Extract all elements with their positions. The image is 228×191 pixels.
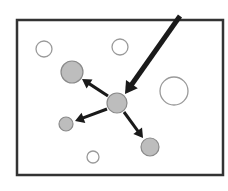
filled-circle-filled-upper-left — [61, 61, 83, 83]
open-circle-open-bottom-small — [87, 151, 99, 163]
filled-circle-filled-lower-left — [59, 117, 73, 131]
circles-group — [36, 39, 188, 163]
arrows-group — [75, 16, 180, 138]
open-circle-open-right-large — [160, 77, 188, 105]
filled-circle-filled-center — [107, 93, 127, 113]
arrow-to-lower-right-icon — [124, 112, 143, 138]
open-circle-open-top-middle — [112, 39, 128, 55]
arrow-to-upper-left-icon — [82, 79, 108, 96]
particle-diagram — [0, 0, 228, 191]
open-circle-open-top-left — [36, 41, 52, 57]
filled-circle-filled-lower-right — [141, 138, 159, 156]
arrow-to-lower-left-icon — [75, 109, 107, 123]
